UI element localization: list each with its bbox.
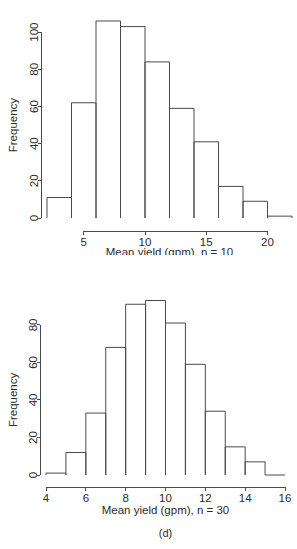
y-tick-label: 20 (28, 174, 40, 187)
x-tick-label: 14 (239, 492, 252, 504)
y-axis-title: Frequency (7, 98, 19, 153)
y-tick-label: 60 (28, 100, 40, 113)
histogram-d-plot: 020406080Frequency46810121416Mean yield … (0, 275, 297, 549)
y-tick-label: 20 (27, 431, 39, 444)
y-tick-label: 80 (27, 318, 39, 331)
x-tick-label: 20 (261, 236, 274, 248)
histogram-panel-d: 020406080Frequency46810121416Mean yield … (0, 275, 297, 549)
y-axis: 020406080 (27, 318, 40, 478)
x-axis: 46810121416 (43, 487, 292, 504)
y-tick-label: 40 (28, 137, 40, 150)
x-tick-label: 5 (81, 236, 87, 248)
x-tick-label: 8 (122, 492, 128, 504)
y-axis: 020406080100 (28, 23, 41, 222)
y-tick-label: 0 (27, 472, 39, 478)
y-tick-label: 0 (28, 215, 40, 221)
panel-caption: (d) (159, 527, 172, 539)
y-tick-label: 80 (28, 63, 40, 76)
x-tick-label: 4 (43, 492, 50, 504)
histogram-panel-c: 020406080100Frequency5101520Mean yield (… (0, 0, 297, 275)
histogram-c-plot: 020406080100Frequency5101520Mean yield (… (0, 0, 297, 255)
histogram-bars (47, 21, 292, 218)
y-tick-label: 100 (28, 23, 40, 42)
x-axis-title: Mean yield (gpm), n = 10 (106, 246, 234, 255)
x-axis-title: Mean yield (gpm), n = 30 (102, 504, 230, 516)
x-tick-label: 16 (279, 492, 292, 504)
x-tick-label: 6 (83, 492, 89, 504)
x-tick-label: 10 (159, 492, 172, 504)
y-axis-title: Frequency (7, 373, 19, 428)
histogram-bars (46, 301, 285, 475)
x-tick-label: 12 (199, 492, 212, 504)
y-tick-label: 40 (27, 394, 39, 407)
y-tick-label: 60 (27, 356, 39, 369)
